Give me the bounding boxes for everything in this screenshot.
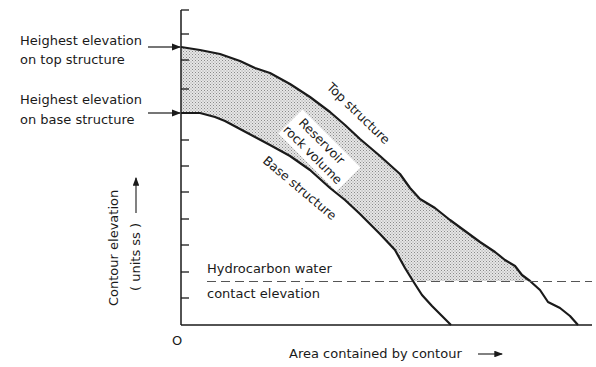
contact-label-line2: contact elevation [207, 286, 320, 301]
x-axis-label: Area contained by contour [289, 346, 462, 361]
origin-label: O [172, 333, 182, 348]
base-elevation-label-line2: on base structure [20, 112, 134, 127]
y-axis-label-line1: Contour elevation [106, 190, 121, 306]
base-elevation-label-line1: Heighest elevation [20, 92, 142, 107]
reservoir-volume-diagram: Heighest elevation on top structure Heig… [0, 0, 596, 367]
top-elevation-label-line2: on top structure [20, 52, 125, 67]
y-axis-label-line2: ( units ss ) [128, 223, 143, 291]
top-elevation-label-line1: Heighest elevation [20, 33, 142, 48]
contact-label-line1: Hydrocarbon water [207, 261, 332, 276]
